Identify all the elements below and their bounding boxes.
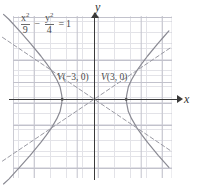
equation-x-exponent: 2	[26, 11, 29, 18]
vertex-left-coords: (−3, 0)	[63, 72, 89, 82]
equation-label: x2 9 − y2 4 = 1	[18, 13, 71, 35]
equation-term-2: y2 4	[43, 13, 55, 35]
vertex-point-right	[125, 98, 128, 101]
equation-term-1-numerator: x2	[19, 13, 31, 23]
y-axis-label: y	[95, 0, 100, 15]
equation-term-1-denominator: 9	[21, 24, 30, 35]
equation-term-2-denominator: 4	[45, 24, 54, 35]
curve-right-branch	[126, 31, 169, 168]
equation-term-1: x2 9	[19, 13, 31, 35]
equation-equals-sign: =	[58, 18, 64, 29]
curve-asymptote-positive	[2, 48, 170, 161]
x-axis-label: x	[184, 92, 189, 107]
equation-y-exponent: 2	[50, 11, 53, 18]
vertex-left-label: V(−3, 0)	[57, 72, 89, 82]
curve-asymptote-negative	[2, 37, 170, 150]
vertex-point-left	[61, 98, 64, 101]
equation-term-2-numerator: y2	[43, 13, 55, 23]
hyperbola-figure: x y V(−3, 0) V(3, 0) x2 9 − y2 4 = 1	[0, 0, 202, 194]
equation-right-hand-side: 1	[66, 18, 71, 29]
vertex-right-label: V(3, 0)	[101, 72, 127, 82]
vertex-right-coords: (3, 0)	[107, 72, 128, 82]
curve-left-branch	[4, 14, 63, 184]
equation-operator: −	[34, 18, 40, 29]
